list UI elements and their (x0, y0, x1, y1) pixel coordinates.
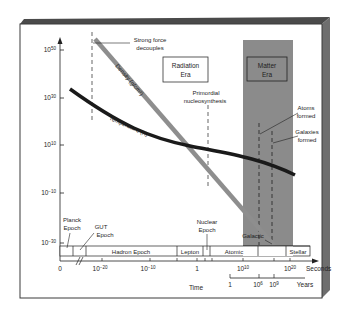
epoch-hadron: Hadron Epoch (112, 249, 150, 255)
nucleosynthesis-label-2: nucleosynthesis (184, 98, 227, 104)
epoch-band: Hadron Epoch Lepton Atomic Stellar (60, 246, 310, 256)
epoch-galactic: Galactic (242, 233, 264, 239)
nucleosynthesis-label: Primordial (192, 90, 219, 96)
epoch-planck: Planck (63, 217, 82, 223)
years-axis-label: Years (297, 281, 314, 288)
frame-right-side (322, 17, 330, 298)
frame-top-edge (20, 17, 330, 24)
strong-force-label: Strong force (134, 37, 167, 43)
atoms-formed-label: Atoms (297, 105, 314, 111)
radiation-era-box: Radiation Era (163, 57, 208, 82)
epoch-nuclear: Nuclear (197, 219, 218, 225)
epoch-lepton: Lepton (181, 249, 199, 255)
atoms-formed-label-2: formed (297, 113, 316, 119)
cosmic-timeline-diagram: Radiation Era Matter Era Density (g/cm³)… (0, 0, 363, 317)
x-tick-1: 1 (195, 265, 199, 272)
epoch-planck-2: Epoch (63, 225, 80, 231)
epoch-nuclear-2: Epoch (198, 227, 215, 233)
epoch-stellar: Stellar (289, 249, 306, 255)
strong-force-label-2: decouples (136, 45, 163, 51)
seconds-axis-label: Seconds (306, 265, 332, 272)
epoch-gut-2: Epoch (96, 232, 113, 238)
matter-era-label-2: Era (262, 71, 273, 78)
epoch-gut: GUT (95, 224, 108, 230)
time-label: Time (189, 284, 204, 291)
years-tick-1: 1 (228, 281, 232, 288)
matter-era-label: Matter (258, 62, 277, 69)
galaxies-formed-label: Galaxies (295, 129, 318, 135)
radiation-era-label: Radiation (172, 62, 200, 69)
x-tick-0: 0 (58, 265, 62, 272)
galaxies-formed-label-2: formed (298, 137, 317, 143)
epoch-atomic: Atomic (225, 249, 243, 255)
radiation-era-label-2: Era (180, 71, 191, 78)
